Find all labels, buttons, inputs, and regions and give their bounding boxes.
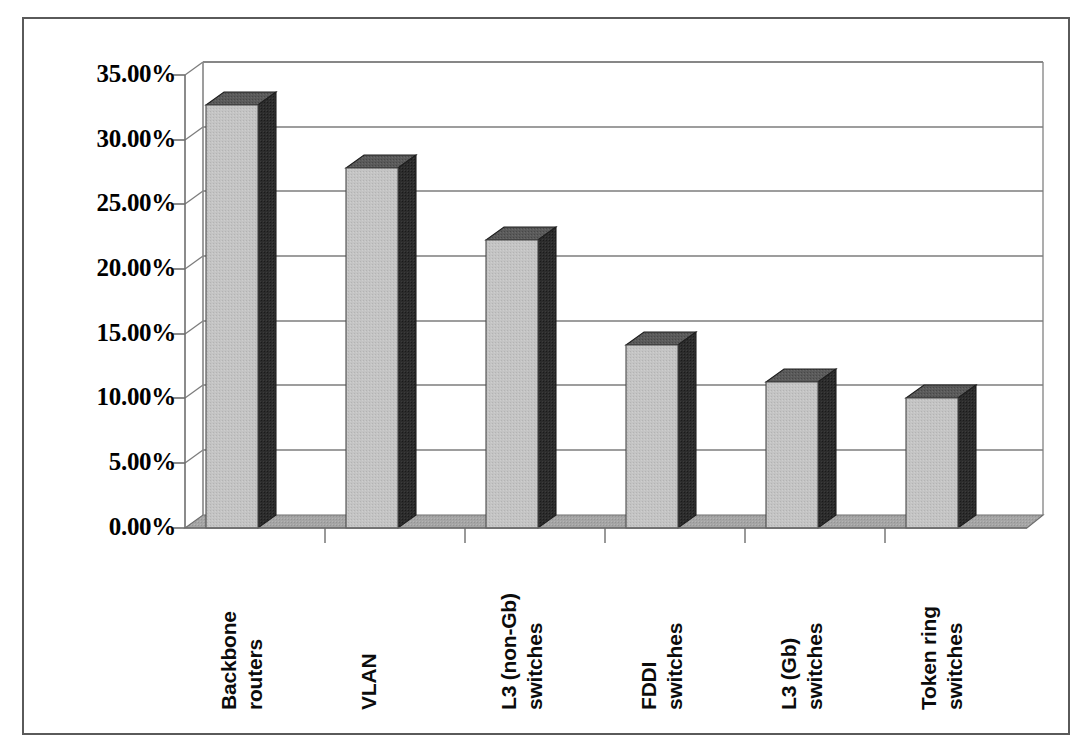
category-label-text: VLAN <box>356 540 382 710</box>
category-label-l3-non-gb-switches: L3 (non-Gb) switches <box>496 540 530 710</box>
category-label-text: FDDI switches <box>636 540 688 710</box>
category-label-text: L3 (Gb) switches <box>776 540 828 710</box>
category-label-fddi-switches: FDDI switches <box>636 540 670 710</box>
category-label-vlan: VLAN <box>356 540 390 710</box>
category-label-text: Backbone routers <box>216 540 268 710</box>
category-label-token-ring-switches: Token ring switches <box>916 540 950 710</box>
category-label-l3-gb-switches: L3 (Gb) switches <box>776 540 810 710</box>
category-label-backbone-routers: Backbone routers <box>216 540 250 710</box>
category-label-text: Token ring switches <box>916 540 968 710</box>
category-label-text: L3 (non-Gb) switches <box>496 540 548 710</box>
category-axis-labels: Backbone routers VLAN L3 (non-Gb) switch… <box>0 0 1092 755</box>
chart-page: 35.00% 30.00% 25.00% 20.00% 15.00% 10.00… <box>0 0 1092 755</box>
